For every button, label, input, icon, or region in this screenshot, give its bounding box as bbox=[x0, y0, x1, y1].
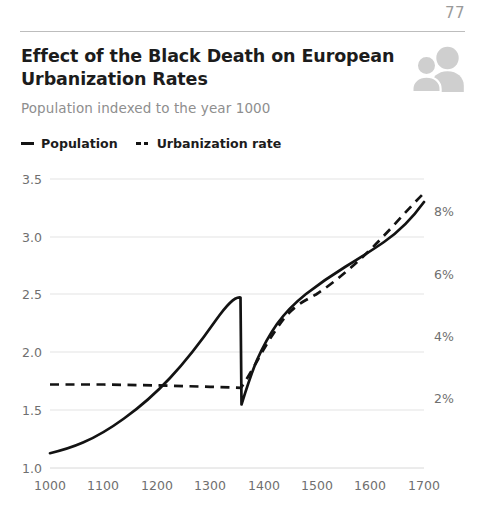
people-icon bbox=[409, 46, 469, 92]
y-tick-left-2-0: 2.0 bbox=[22, 345, 42, 360]
chart-subtitle: Population indexed to the year 1000 bbox=[21, 100, 270, 116]
legend-label-population: Population bbox=[41, 136, 118, 151]
series-urbanization-rate bbox=[50, 193, 424, 388]
x-tick-1500: 1500 bbox=[301, 478, 333, 493]
y-tick-left-2-5: 2.5 bbox=[22, 287, 42, 302]
y-tick-left-3-5: 3.5 bbox=[22, 172, 42, 187]
legend-swatch-dashed-icon bbox=[136, 142, 150, 145]
x-tick-1400: 1400 bbox=[248, 478, 280, 493]
y-tick-left-3-0: 3.0 bbox=[22, 230, 42, 245]
legend-label-urbanization: Urbanization rate bbox=[157, 136, 282, 151]
legend-swatch-solid-icon bbox=[21, 142, 34, 145]
legend-item-urbanization[interactable]: Urbanization rate bbox=[136, 136, 282, 151]
y-tick-right-2pct: 2% bbox=[434, 391, 454, 406]
x-tick-1700: 1700 bbox=[408, 478, 440, 493]
y-tick-right-6pct: 6% bbox=[434, 267, 454, 282]
y-tick-left-1-5: 1.5 bbox=[22, 403, 42, 418]
x-axis-labels: 1000 1100 1200 1300 1400 1500 1600 1700 bbox=[34, 478, 440, 493]
y-axis-right-labels: 8% 6% 4% 2% bbox=[434, 204, 454, 406]
legend-item-population[interactable]: Population bbox=[21, 136, 118, 151]
x-tick-1600: 1600 bbox=[354, 478, 386, 493]
page-number: 77 bbox=[445, 4, 465, 22]
line-chart: 3.5 3.0 2.5 2.0 1.5 1.0 8% 6% 4% 2% 1000 bbox=[0, 160, 485, 522]
chart-legend: Population Urbanization rate bbox=[21, 136, 281, 151]
series-population bbox=[50, 202, 424, 453]
header-divider bbox=[20, 31, 465, 32]
y-tick-right-8pct: 8% bbox=[434, 204, 454, 219]
y-tick-right-4pct: 4% bbox=[434, 329, 454, 344]
x-tick-1200: 1200 bbox=[141, 478, 173, 493]
chart-page: 77 Effect of the Black Death on European… bbox=[0, 0, 485, 522]
y-axis-left-labels: 3.5 3.0 2.5 2.0 1.5 1.0 bbox=[22, 172, 42, 476]
chart-plot-area: 3.5 3.0 2.5 2.0 1.5 1.0 8% 6% 4% 2% 1000 bbox=[0, 160, 485, 522]
y-tick-left-1-0: 1.0 bbox=[22, 461, 42, 476]
grid-lines bbox=[50, 179, 424, 468]
x-tick-1000: 1000 bbox=[34, 478, 66, 493]
x-tick-1100: 1100 bbox=[87, 478, 119, 493]
page-title: Effect of the Black Death on European Ur… bbox=[21, 45, 396, 91]
x-tick-1300: 1300 bbox=[194, 478, 226, 493]
